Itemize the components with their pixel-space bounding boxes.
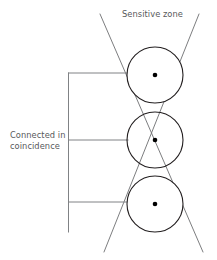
- coincidence-wiring: [69, 73, 134, 232]
- detector-center-dot-top: [153, 73, 158, 78]
- coincidence-detector-diagram: Sensitive zone Connected in coincidence: [0, 0, 217, 260]
- sensitive-zone-label: Sensitive zone: [122, 9, 183, 20]
- detector-circles: [127, 47, 183, 232]
- detector-center-dot-bottom: [153, 202, 158, 207]
- detector-center-dot-middle: [153, 138, 158, 143]
- connected-in-coincidence-label: Connected in coincidence: [10, 130, 65, 152]
